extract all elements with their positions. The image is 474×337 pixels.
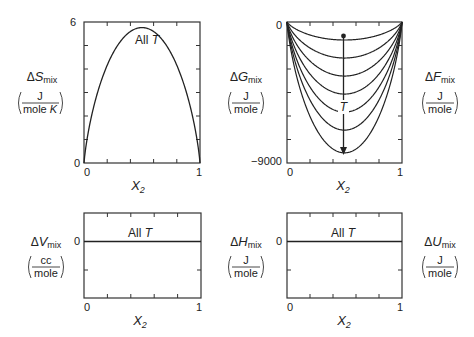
enthalpy-xtick-0: 0 bbox=[287, 301, 293, 313]
enthalpy-units-num: J bbox=[243, 254, 249, 266]
volume-units-den: mole bbox=[34, 267, 58, 279]
enthalpy-ylabel: ΔHmix bbox=[230, 234, 262, 250]
enthalpy-ytick-0: 0 bbox=[276, 235, 282, 247]
gibbs-units-num: J bbox=[243, 90, 249, 102]
volume-ytick-0: 0 bbox=[74, 235, 80, 247]
entropy-xtick-0: 0 bbox=[84, 166, 90, 178]
helmholtz-label: ΔFmix bbox=[425, 69, 455, 85]
internal-energy-units-num: J bbox=[437, 254, 443, 266]
volume-annotation: All T bbox=[128, 226, 154, 240]
entropy-plot: All T 6 0 0 1 X2 ΔSmix J mole K bbox=[19, 16, 203, 195]
volume-units-num: cc bbox=[41, 254, 53, 266]
volume-plot: All T 0 0 1 X2 ΔVmix cc mole bbox=[29, 213, 203, 330]
arrow-head-icon bbox=[340, 147, 347, 155]
entropy-curve bbox=[84, 28, 200, 163]
figure-canvas: All T 6 0 0 1 X2 ΔSmix J mole K bbox=[0, 0, 474, 337]
enthalpy-annotation: All T bbox=[331, 226, 357, 240]
gibbs-ytick-min: −9000 bbox=[251, 155, 282, 167]
entropy-units-den: mole K bbox=[23, 103, 58, 115]
enthalpy-xlabel: X2 bbox=[336, 313, 351, 330]
entropy-annotation: All T bbox=[135, 33, 161, 47]
enthalpy-xtick-1: 1 bbox=[397, 301, 403, 313]
volume-xlabel: X2 bbox=[132, 313, 147, 330]
volume-xtick-0: 0 bbox=[84, 301, 90, 313]
gibbs-ytick-0: 0 bbox=[276, 19, 282, 31]
helmholtz-units-num: J bbox=[437, 90, 443, 102]
enthalpy-plot: All T 0 0 1 X2 ΔHmix J mole ΔUmix J mole bbox=[229, 213, 458, 330]
entropy-units-num: J bbox=[37, 90, 43, 102]
entropy-ylabel: ΔSmix bbox=[27, 69, 58, 85]
gibbs-curve-3 bbox=[287, 22, 402, 76]
gibbs-xtick-1: 1 bbox=[397, 166, 403, 178]
gibbs-units-den: mole bbox=[234, 103, 258, 115]
enthalpy-units-den: mole bbox=[234, 267, 258, 279]
volume-ylabel: ΔVmix bbox=[31, 234, 62, 250]
gibbs-curves bbox=[287, 22, 402, 153]
gibbs-plot: T 0 −9000 0 1 X2 ΔGmix J mole ΔFmix J mo… bbox=[229, 19, 458, 195]
volume-xtick-1: 1 bbox=[196, 301, 202, 313]
gibbs-plot-frame bbox=[287, 22, 402, 163]
helmholtz-units-den: mole bbox=[428, 103, 452, 115]
gibbs-xtick-0: 0 bbox=[287, 166, 293, 178]
entropy-xlabel: X2 bbox=[130, 178, 145, 195]
gibbs-xlabel: X2 bbox=[335, 178, 350, 195]
entropy-ytick-0: 0 bbox=[74, 157, 80, 169]
internal-energy-units-den: mole bbox=[428, 267, 452, 279]
entropy-ytick-6: 6 bbox=[70, 16, 76, 28]
entropy-xtick-1: 1 bbox=[196, 166, 202, 178]
gibbs-ylabel: ΔGmix bbox=[230, 69, 263, 85]
internal-energy-label: ΔUmix bbox=[424, 234, 456, 250]
